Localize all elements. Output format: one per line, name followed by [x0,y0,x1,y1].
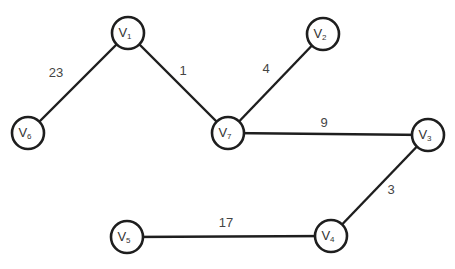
node-v4: V4 [315,220,347,252]
node-v3: V3 [412,119,444,151]
edge-weight-label: 3 [387,182,394,197]
edge-v5-v4 [127,236,331,237]
edge-v3-v4 [331,135,428,236]
edge-weight-label: 9 [320,115,327,130]
node-v5: V5 [111,221,143,253]
node-v2: V2 [307,18,339,50]
edge-weight-label: 23 [49,65,63,80]
weighted-graph-diagram: 23149317 V1V2V3V4V5V6V7 [0,0,455,269]
edge-weight-label: 1 [179,63,186,78]
edge-weight-label: 17 [219,215,233,230]
node-v6: V6 [12,117,44,149]
node-v1: V1 [112,17,144,49]
node-v7: V7 [212,117,244,149]
edge-v1-v6 [28,33,128,133]
edge-v7-v3 [228,133,428,135]
edge-v7-v2 [228,34,323,133]
edge-v1-v7 [128,33,228,133]
edge-weight-label: 4 [262,61,269,76]
